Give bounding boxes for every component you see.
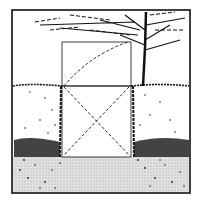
ground [13,157,189,192]
left-hedge [13,85,62,158]
gate-outline [62,42,131,157]
hedge-gate-illustration [0,0,201,205]
right-hedge [131,85,189,158]
